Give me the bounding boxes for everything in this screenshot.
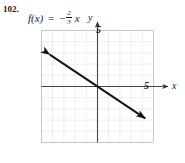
y-axis-tick-label-5: 5 — [96, 24, 101, 35]
figure-container: 102. f(x) = − 2 3 x — [0, 0, 185, 163]
x-axis-tick-label-5: 5 — [144, 80, 149, 91]
axes — [42, 22, 169, 143]
y-axis-name-label: y — [88, 12, 92, 23]
coordinate-plane-graph — [0, 0, 185, 163]
x-axis-name-label: x — [172, 80, 176, 91]
